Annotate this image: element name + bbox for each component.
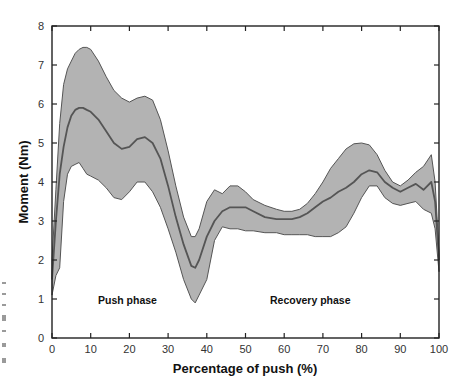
y-tick-label: 8 (38, 20, 44, 32)
annotation-push-phase: Push phase (98, 294, 157, 306)
sd-band-area (52, 47, 439, 303)
x-tick-label: 80 (355, 343, 367, 355)
annotation-recovery-phase: Recovery phase (270, 294, 351, 306)
cropped-caption-fragment (2, 315, 6, 321)
x-tick-label: 40 (201, 343, 213, 355)
cropped-caption-fragment (2, 282, 6, 284)
y-tick-label: 2 (38, 254, 44, 266)
y-tick-label: 3 (38, 215, 44, 227)
y-tick-label: 5 (38, 137, 44, 149)
y-tick-label: 6 (38, 98, 44, 110)
x-tick-label: 30 (162, 343, 174, 355)
x-tick-label: 70 (317, 343, 329, 355)
x-tick-label: 60 (278, 343, 290, 355)
x-tick-label: 0 (49, 343, 55, 355)
y-tick-label: 7 (38, 59, 44, 71)
x-tick-label: 10 (85, 343, 97, 355)
cropped-caption-fragment (2, 304, 6, 306)
y-tick-label: 4 (38, 176, 44, 188)
x-axis-title: Percentage of push (%) (173, 361, 317, 376)
cropped-caption-fragment (2, 293, 6, 295)
cropped-caption-fragment (2, 343, 6, 347)
y-axis-title: Moment (Nm) (16, 140, 31, 223)
moment-chart: 0102030405060708090100 012345678 Percent… (0, 0, 463, 383)
cropped-caption-fragment (2, 358, 6, 363)
y-tick-label: 0 (38, 332, 44, 344)
y-tick-label: 1 (38, 293, 44, 305)
x-tick-label: 50 (239, 343, 251, 355)
x-tick-label: 100 (430, 343, 448, 355)
sd-band (52, 47, 439, 303)
x-tick-label: 90 (394, 343, 406, 355)
x-tick-label: 20 (123, 343, 135, 355)
cropped-caption-fragment (2, 330, 6, 332)
